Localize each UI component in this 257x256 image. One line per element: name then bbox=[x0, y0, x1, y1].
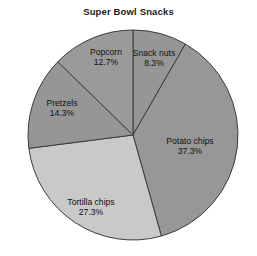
slice-value-tortilla-chips: 27.3% bbox=[79, 207, 104, 217]
slice-value-popcorn: 12.7% bbox=[94, 57, 119, 67]
slice-label-snack-nuts: Snack nuts bbox=[133, 48, 176, 58]
slice-label-tortilla-chips: Tortilla chips bbox=[67, 197, 114, 207]
pie-chart-figure: Super Bowl Snacks Snack nuts8.3%Potato c… bbox=[0, 0, 257, 256]
slice-label-pretzels: Pretzels bbox=[46, 98, 77, 108]
slice-value-snack-nuts: 8.3% bbox=[144, 58, 164, 68]
slice-label-popcorn: Popcorn bbox=[90, 47, 122, 57]
slice-value-potato-chips: 37.3% bbox=[178, 146, 203, 156]
slice-value-pretzels: 14.3% bbox=[50, 108, 75, 118]
slice-label-potato-chips: Potato chips bbox=[166, 136, 213, 146]
pie-chart-svg: Snack nuts8.3%Potato chips37.3%Tortilla … bbox=[0, 0, 257, 256]
pie-slices-group bbox=[28, 30, 238, 240]
